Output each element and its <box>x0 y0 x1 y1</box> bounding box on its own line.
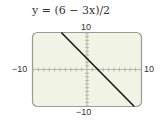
graph-screen <box>0 0 160 121</box>
